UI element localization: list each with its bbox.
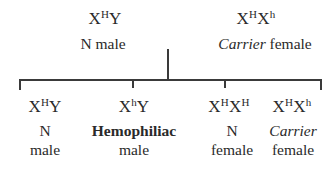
offspring-4-sex: female: [272, 141, 314, 159]
allele-x: X: [28, 97, 40, 116]
allele-y: Y: [49, 97, 61, 116]
offspring-3-phenotype: N: [226, 122, 237, 140]
allele-y: Y: [137, 97, 149, 116]
phenotype-text: female: [266, 35, 312, 52]
allele-superscript: H: [285, 96, 293, 108]
phenotype-text: N male: [80, 35, 125, 52]
allele-superscript: H: [221, 96, 229, 108]
allele-x: X: [88, 9, 100, 28]
phenotype-emphasis: Carrier: [218, 35, 265, 52]
allele-x: X: [208, 97, 220, 116]
allele-y: Y: [109, 9, 121, 28]
mother-genotype: XHXh: [237, 10, 276, 28]
offspring-drop-line-3: [224, 79, 226, 88]
allele-superscript: H: [241, 96, 249, 108]
father-genotype: XHY: [88, 10, 121, 28]
offspring-drop-line-4: [320, 79, 322, 90]
offspring-1-genotype: XHY: [28, 98, 61, 116]
cross-stem-line: [167, 49, 169, 80]
allele-x: X: [293, 97, 305, 116]
offspring-4-genotype: XHXh: [273, 98, 312, 116]
allele-superscript: H: [249, 8, 257, 20]
allele-superscript: H: [41, 96, 49, 108]
allele-x: X: [273, 97, 285, 116]
offspring-2-phenotype: Hemophiliac: [92, 122, 176, 140]
allele-x: X: [257, 9, 269, 28]
allele-x: X: [229, 97, 241, 116]
offspring-drop-line-2: [132, 79, 134, 88]
offspring-2-sex: male: [119, 141, 149, 159]
allele-superscript: h: [270, 8, 276, 20]
allele-x: X: [119, 97, 131, 116]
offspring-1-sex: male: [30, 141, 60, 159]
offspring-3-genotype: XHXH: [208, 98, 249, 116]
offspring-3-sex: female: [211, 141, 253, 159]
offspring-bar-line: [19, 79, 322, 81]
allele-x: X: [237, 9, 249, 28]
offspring-4-phenotype: Carrier: [269, 122, 316, 140]
allele-superscript: H: [101, 8, 109, 20]
offspring-1-phenotype: N: [39, 122, 50, 140]
mother-phenotype: Carrier female: [218, 35, 311, 53]
allele-superscript: h: [306, 96, 312, 108]
offspring-drop-line-1: [19, 79, 21, 90]
father-phenotype: N male: [80, 35, 125, 53]
offspring-2-genotype: XhY: [119, 98, 150, 116]
